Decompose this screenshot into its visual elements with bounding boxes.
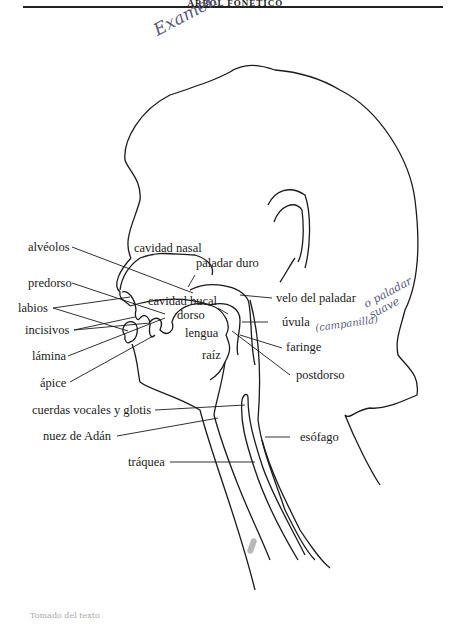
label-velo-del-paladar: velo del paladar	[276, 291, 356, 305]
label-cavidad-nasal: cavidad nasal	[134, 241, 202, 255]
label-nuez-de-adan: nuez de Adán	[43, 429, 111, 443]
label-alveolos: alvéolos	[28, 240, 70, 254]
label-lamina: lámina	[32, 349, 66, 363]
label-paladar-duro: paladar duro	[196, 256, 259, 270]
label-cavidad-bucal: cavidad bucal	[148, 294, 217, 308]
label-raiz: raíz	[202, 348, 221, 362]
glottis-top	[242, 394, 248, 400]
label-cuerdas-vocales: cuerdas vocales y glotis	[32, 403, 151, 417]
vocal-tract-diagram	[0, 0, 471, 629]
trachea-right	[262, 440, 330, 568]
label-postdorso: postdorso	[296, 368, 345, 382]
label-labios: labios	[18, 301, 48, 315]
label-faringe: faringe	[286, 340, 321, 354]
footer-scrap: Tomado del texto	[30, 611, 100, 620]
ear-inner	[274, 205, 303, 282]
head-outline	[125, 65, 418, 485]
label-uvula: úvula	[282, 315, 310, 329]
label-dorso: dorso	[177, 308, 205, 322]
label-predorso: predorso	[28, 276, 72, 290]
pharynx-front	[214, 362, 270, 560]
label-incisivos: incisivos	[25, 323, 69, 337]
label-apice: ápice	[40, 376, 66, 390]
label-traquea: tráquea	[128, 455, 165, 469]
label-lengua: lengua	[185, 326, 218, 340]
label-esofago: esófago	[300, 430, 339, 444]
